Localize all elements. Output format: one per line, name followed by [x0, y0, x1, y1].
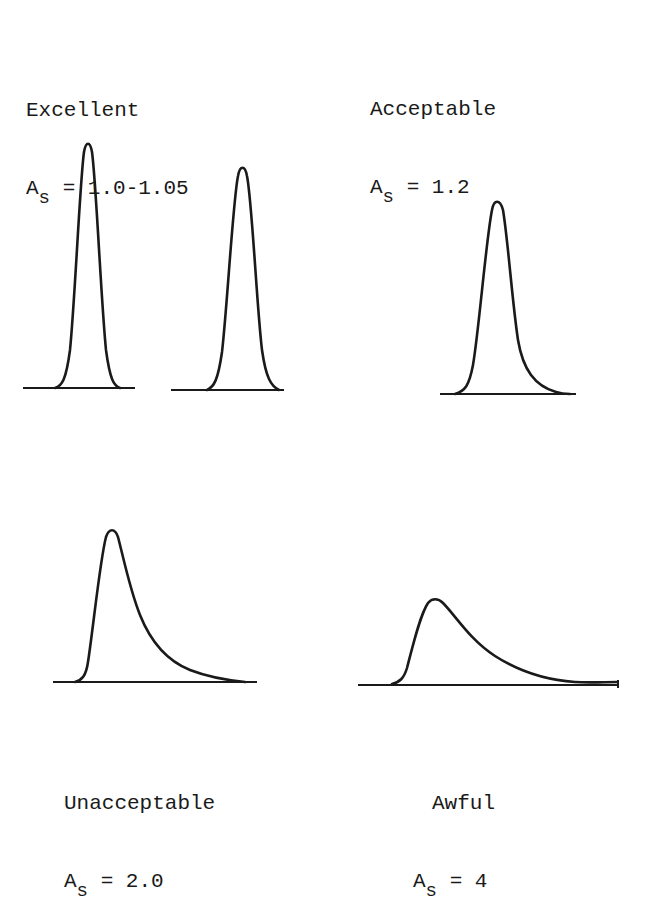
- peak-awful: [358, 599, 619, 688]
- category-title: Acceptable: [370, 97, 496, 123]
- label-excellent: Excellent As = 1.0-1.05: [26, 46, 189, 228]
- label-acceptable: Acceptable As = 1.2: [370, 45, 496, 227]
- peak-unacceptable: [53, 530, 257, 682]
- label-awful: Awful As = 4: [413, 739, 495, 900]
- category-title: Awful: [413, 791, 495, 817]
- asymmetry-value: As = 4: [413, 869, 495, 895]
- asymmetry-value: As = 2.0: [64, 869, 215, 895]
- category-title: Excellent: [26, 98, 189, 124]
- asymmetry-value: As = 1.2: [370, 175, 496, 201]
- peak-curve: [75, 530, 245, 682]
- peak-curve: [392, 599, 617, 684]
- peak-acceptable: [440, 202, 576, 394]
- label-unacceptable: Unacceptable As = 2.0: [64, 739, 215, 900]
- peak-curve: [455, 202, 570, 394]
- asymmetry-value: As = 1.0-1.05: [26, 176, 189, 202]
- category-title: Unacceptable: [64, 791, 215, 817]
- peak-curve: [207, 168, 279, 390]
